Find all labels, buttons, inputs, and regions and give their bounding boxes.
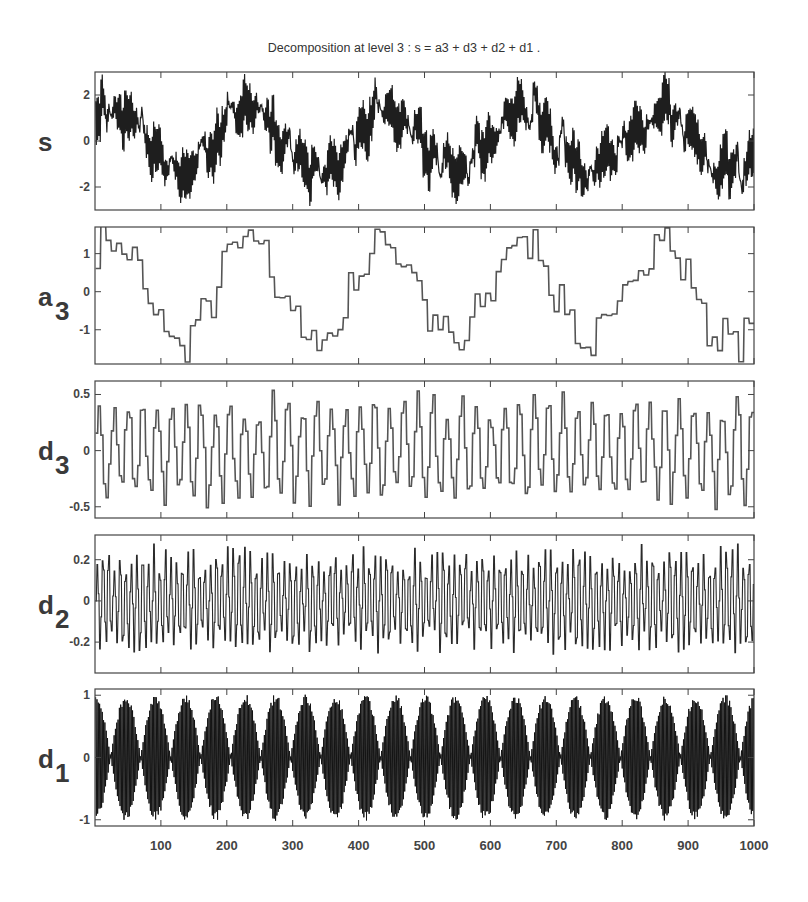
y-tick-label: 2 [83, 88, 90, 102]
x-tick-label: 800 [611, 838, 633, 853]
series-line-d2 [96, 544, 754, 654]
y-tick-label: -1 [79, 813, 90, 827]
series-line-d1 [96, 695, 754, 821]
y-tick-label: 0 [83, 444, 90, 458]
y-tick-label: 0 [83, 594, 90, 608]
x-tick-label: 1000 [740, 838, 769, 853]
axes-box [95, 227, 754, 364]
x-tick-label: 200 [216, 838, 238, 853]
x-tick-label: 600 [480, 838, 502, 853]
panel-d2: -0.200.2d2 [38, 535, 754, 673]
x-tick-label: 900 [677, 838, 699, 853]
x-tick-label: 400 [348, 838, 370, 853]
series-line-a3 [96, 222, 754, 362]
panel-a3: -101a3 [38, 222, 754, 364]
y-tick-label: -0.5 [69, 500, 90, 514]
panel-d3: -0.500.5d3 [38, 381, 754, 518]
x-tick-label: 500 [414, 838, 436, 853]
y-tick-label: 0.5 [73, 387, 90, 401]
y-tick-label: -0.2 [69, 635, 90, 649]
y-tick-label: 0 [83, 751, 90, 765]
panel-ylabel-d2: d [38, 590, 54, 620]
panel-ylabel-d1: d [38, 744, 54, 774]
x-tick-label: 300 [282, 838, 304, 853]
panel-s: -202s [38, 72, 754, 210]
panel-ylabel-subscript: 3 [55, 450, 69, 480]
panel-ylabel-s: s [38, 127, 52, 157]
y-tick-label: 1 [83, 688, 90, 702]
x-tick-label: 700 [545, 838, 567, 853]
panel-ylabel-subscript: 2 [55, 604, 69, 634]
panel-ylabel-d3: d [38, 436, 54, 466]
y-tick-label: 0.2 [73, 553, 90, 567]
series-line-d3 [96, 390, 754, 509]
panel-ylabel-a3: a [38, 282, 53, 312]
y-tick-label: -1 [79, 323, 90, 337]
series-line-s [96, 72, 754, 207]
panel-ylabel-subscript: 1 [55, 758, 69, 788]
y-tick-label: -2 [79, 180, 90, 194]
y-tick-label: 1 [83, 247, 90, 261]
y-tick-label: 0 [83, 285, 90, 299]
x-tick-label: 100 [150, 838, 172, 853]
panel-d1: -101d1 [38, 688, 754, 827]
wavelet-decomposition-figure: -202s-101a3-0.500.5d3-0.200.2d2-101d1100… [0, 0, 808, 902]
y-tick-label: 0 [83, 134, 90, 148]
panel-ylabel-subscript: 3 [55, 296, 69, 326]
